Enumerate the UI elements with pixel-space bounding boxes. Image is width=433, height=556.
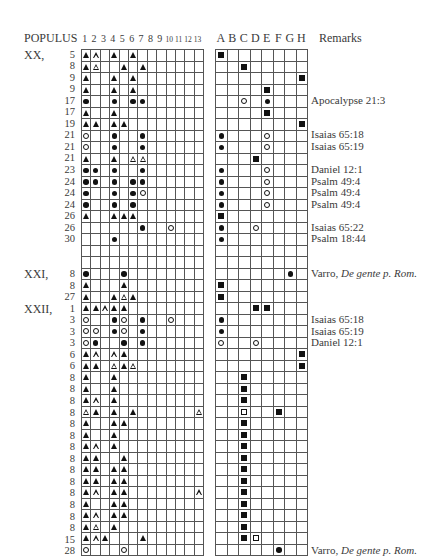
grid-cell xyxy=(110,349,119,361)
grid-cell xyxy=(239,245,251,257)
row-number: 8 xyxy=(45,383,75,395)
grid-cell xyxy=(91,268,100,280)
filled-triangle-icon xyxy=(110,292,118,303)
grid-cell xyxy=(273,245,285,257)
filled-square-icon xyxy=(216,280,227,291)
grid-cell xyxy=(166,452,175,464)
grid-cell xyxy=(273,142,285,154)
open-circle-icon xyxy=(262,200,273,211)
right-grid-row xyxy=(216,544,308,556)
grid-cell xyxy=(227,326,239,338)
open-circle-icon xyxy=(167,315,175,326)
grid-cell xyxy=(185,234,194,246)
row-number: 8 xyxy=(45,511,75,523)
grid-cell xyxy=(91,544,100,556)
grid-cell xyxy=(227,222,239,234)
grid-cell xyxy=(138,498,147,510)
grid-cell xyxy=(250,372,262,384)
grid-cell xyxy=(82,61,91,73)
grid-cell xyxy=(262,303,274,315)
filled-triangle-icon xyxy=(91,453,99,464)
grid-cell xyxy=(175,245,184,257)
grid-cell xyxy=(147,441,156,453)
grid-cell xyxy=(110,326,119,338)
row-number: 8 xyxy=(45,476,75,488)
filled-triangle-icon xyxy=(110,522,118,533)
grid-cell xyxy=(250,533,262,545)
grid-cell xyxy=(227,61,239,73)
grid-cell xyxy=(157,291,166,303)
grid-cell xyxy=(175,303,184,315)
grid-cell xyxy=(157,395,166,407)
grid-cell xyxy=(91,222,100,234)
grid-cell xyxy=(157,199,166,211)
grid-cell xyxy=(128,510,137,522)
grid-cell xyxy=(166,61,175,73)
grid-cell xyxy=(91,360,100,372)
grid-cell xyxy=(273,73,285,85)
remark-text: Isaias 65:19 xyxy=(311,141,364,153)
column-number-10: 10 xyxy=(165,35,174,44)
grid-cell xyxy=(273,153,285,165)
grid-cell xyxy=(216,50,228,62)
left-grid-row xyxy=(82,383,204,395)
grid-cell xyxy=(239,188,251,200)
grid-cell xyxy=(119,73,128,85)
grid-cell xyxy=(110,291,119,303)
grid-cell xyxy=(91,521,100,533)
grid-cell xyxy=(194,268,203,280)
open-circle-icon xyxy=(91,326,99,337)
filled-square-icon xyxy=(297,73,308,84)
grid-cell xyxy=(285,533,297,545)
grid-cell xyxy=(157,245,166,257)
row-number: 3 xyxy=(45,337,75,349)
grid-cell xyxy=(110,464,119,476)
grid-cell xyxy=(166,487,175,499)
grid-cell xyxy=(138,441,147,453)
filled-triangle-icon xyxy=(129,73,137,84)
grid-cell xyxy=(285,234,297,246)
grid-cell xyxy=(285,418,297,430)
grid-cell xyxy=(227,395,239,407)
grid-cell xyxy=(285,429,297,441)
grid-cell xyxy=(91,533,100,545)
row-number: 8 xyxy=(45,268,75,280)
grid-cell xyxy=(110,211,119,223)
grid-cell xyxy=(227,337,239,349)
grid-cell xyxy=(91,510,100,522)
grid-cell xyxy=(262,544,274,556)
grid-cell xyxy=(91,199,100,211)
filled-circle-icon xyxy=(129,200,137,211)
grid-cell xyxy=(185,314,194,326)
filled-triangle-icon xyxy=(91,476,99,487)
grid-cell xyxy=(285,222,297,234)
grid-cell xyxy=(250,96,262,108)
right-grid-row xyxy=(216,142,308,154)
grid-cell xyxy=(262,533,274,545)
row-number: 8 xyxy=(45,522,75,534)
grid-cell xyxy=(82,429,91,441)
right-grid-row xyxy=(216,84,308,96)
grid-cell xyxy=(194,280,203,292)
grid-cell xyxy=(110,245,119,257)
grid-cell xyxy=(216,199,228,211)
grid-cell xyxy=(273,188,285,200)
grid-cell xyxy=(227,314,239,326)
grid-cell xyxy=(227,429,239,441)
filled-triangle-icon xyxy=(82,108,90,119)
grid-cell xyxy=(128,257,137,269)
filled-circle-icon xyxy=(110,131,118,142)
grid-cell xyxy=(296,498,308,510)
left-grid-row xyxy=(82,199,204,211)
remark-text: Psalm 49:4 xyxy=(311,187,360,199)
grid-cell xyxy=(119,487,128,499)
grid-cell xyxy=(285,211,297,223)
grid-cell xyxy=(285,544,297,556)
open-circle-icon xyxy=(82,545,90,556)
grid-cell xyxy=(138,521,147,533)
grid-cell xyxy=(250,429,262,441)
grid-cell xyxy=(273,464,285,476)
grid-cell xyxy=(285,188,297,200)
right-grid-row xyxy=(216,119,308,131)
grid-cell xyxy=(262,372,274,384)
